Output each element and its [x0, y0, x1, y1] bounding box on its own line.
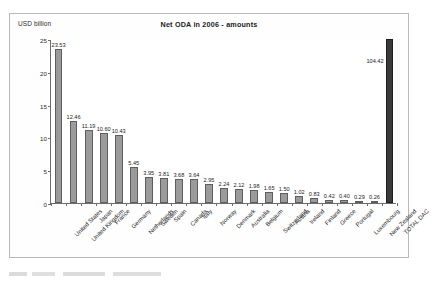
x-axis-tick-mark: [171, 203, 172, 206]
bar-value-label: 1.65: [264, 185, 275, 191]
x-axis-tick-mark: [352, 203, 353, 206]
y-axis-tick-mark: [48, 171, 51, 172]
y-axis-tick-mark: [48, 73, 51, 74]
bar-value-label: 1.98: [249, 183, 260, 189]
x-axis-tick-mark: [141, 203, 142, 206]
scan-artifact: [9, 272, 179, 276]
bar-value-label: 3.64: [188, 172, 199, 178]
bar-value-label: 5.45: [128, 160, 139, 166]
bar-germany: [115, 135, 123, 203]
bar-value-label: 23.53: [52, 42, 66, 48]
x-axis-category-label: Austria: [294, 208, 311, 225]
chart-figure: USD billion Net ODA in 2006 - amounts 05…: [9, 13, 409, 258]
x-axis-tick-mark: [277, 203, 278, 206]
bar-value-label: 3.95: [143, 170, 154, 176]
x-axis-tick-mark: [307, 203, 308, 206]
x-axis-tick-mark: [201, 203, 202, 206]
y-axis-tick-mark: [48, 106, 51, 107]
bar-sweden: [145, 177, 153, 203]
bar-value-label: 0.42: [324, 193, 335, 199]
x-axis-category-label: Ireland: [309, 208, 326, 225]
bar-netherlands: [130, 167, 138, 203]
x-axis-tick-mark: [96, 203, 97, 206]
bar-united-states: [55, 49, 63, 203]
bar-value-label: 0.40: [339, 193, 350, 199]
x-axis-tick-mark: [216, 203, 217, 206]
bar-spain: [160, 178, 168, 203]
bar-value-label: 0.83: [309, 191, 320, 197]
bar-value-label: 1.50: [279, 186, 290, 192]
x-axis-tick-mark: [397, 203, 398, 206]
bar-value-label: 104.42: [366, 58, 383, 64]
bar-ireland: [295, 196, 303, 203]
x-axis-tick-mark: [66, 203, 67, 206]
bar-value-label: 0.29: [354, 194, 365, 200]
x-axis-tick-mark: [156, 203, 157, 206]
bar-canada: [175, 179, 183, 203]
bar-belgium: [250, 190, 258, 203]
x-axis-tick-mark: [337, 203, 338, 206]
bar-value-label: 10.60: [97, 126, 111, 132]
bar-france: [100, 133, 108, 203]
bar-finland: [310, 198, 318, 203]
x-axis-tick-mark: [382, 203, 383, 206]
y-axis-tick-label: 0: [44, 201, 47, 208]
bar-value-label: 2.95: [204, 177, 215, 183]
bar-luxembourg: [355, 201, 363, 203]
y-axis-tick-label: 15: [40, 102, 47, 109]
bar-value-label: 0.26: [369, 194, 380, 200]
x-axis-tick-mark: [292, 203, 293, 206]
bar-value-label: 3.81: [158, 171, 169, 177]
bar-japan: [85, 130, 93, 203]
bar-new-zealand: [371, 201, 379, 203]
bar-value-label: 2.12: [234, 182, 245, 188]
bar-greece: [325, 200, 333, 203]
bar-value-label: 2.24: [219, 181, 230, 187]
bar-denmark: [220, 188, 228, 203]
bar-australia: [235, 189, 243, 203]
x-axis-tick-mark: [111, 203, 112, 206]
bar-value-label: 3.68: [173, 172, 184, 178]
y-axis-tick-label: 5: [44, 168, 47, 175]
bar-portugal: [340, 200, 348, 203]
x-axis-tick-mark: [367, 203, 368, 206]
bar-value-label: 1.02: [294, 189, 305, 195]
x-axis-tick-mark: [186, 203, 187, 206]
chart-title: Net ODA in 2006 - amounts: [10, 20, 408, 29]
bar-switzerland: [265, 192, 273, 203]
y-axis-tick-label: 10: [40, 135, 47, 142]
x-axis-category-label: Portugal: [355, 208, 375, 228]
x-axis-tick-mark: [322, 203, 323, 206]
x-axis-tick-mark: [262, 203, 263, 206]
bar-value-label: 10.43: [112, 128, 126, 134]
x-axis-tick-mark: [232, 203, 233, 206]
y-axis-tick-label: 25: [40, 37, 47, 44]
bar-total-dac: [386, 39, 394, 203]
x-axis-tick-mark: [81, 203, 82, 206]
x-axis-tick-mark: [51, 203, 52, 206]
y-axis-tick-mark: [48, 138, 51, 139]
x-axis-category-label: Germany: [130, 208, 152, 230]
bar-italy: [190, 179, 198, 203]
x-axis-tick-mark: [247, 203, 248, 206]
x-axis-tick-mark: [126, 203, 127, 206]
plot-area: 051015202523.53United States12.46United …: [50, 40, 396, 204]
bar-united-kingdom: [70, 121, 78, 203]
bar-austria: [280, 193, 288, 203]
bar-norway: [205, 184, 213, 203]
bar-value-label: 12.46: [67, 114, 81, 120]
y-axis-tick-label: 20: [40, 69, 47, 76]
bar-value-label: 11.19: [82, 123, 96, 129]
